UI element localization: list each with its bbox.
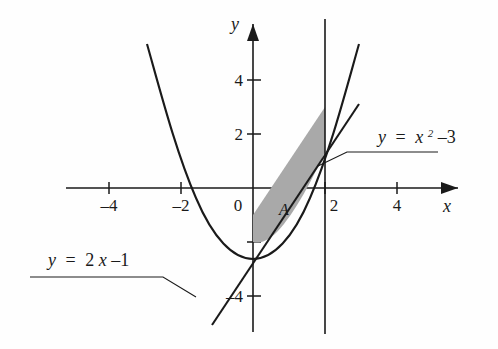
x-tick-label-4: 4 <box>393 196 402 215</box>
line-label: y = 2 x –1 <box>46 250 129 270</box>
y-tick-label-4: 4 <box>235 71 244 90</box>
x-tick-label--2: –2 <box>172 196 190 215</box>
parabola-label-operator: = <box>396 127 406 147</box>
y-tick-label-2: 2 <box>235 125 244 144</box>
y-axis-arrowhead <box>247 24 259 41</box>
line-label-variable: x <box>98 250 107 270</box>
x-tick-label--4: –4 <box>100 196 119 215</box>
parabola-label-exponent: 2 <box>428 127 434 139</box>
y-axis-label: y <box>229 14 239 34</box>
parabola-label-lhs: y <box>376 127 386 147</box>
axes-group: –4 –2 0 2 4 4 2 –4 x y <box>66 14 458 332</box>
x-axis-label: x <box>442 196 451 216</box>
line-leader-line <box>30 277 196 297</box>
x-axis-arrowhead <box>441 182 458 194</box>
x-tick-label-0: 0 <box>234 196 243 215</box>
graph-canvas: –4 –2 0 2 4 4 2 –4 x y A <box>0 0 498 349</box>
x-tick-label-2: 2 <box>330 196 339 215</box>
line-label-slope: 2 <box>85 250 94 270</box>
math-figure: –4 –2 0 2 4 4 2 –4 x y A <box>0 0 498 349</box>
parabola-label-tail: –3 <box>437 127 456 147</box>
parabola-label-base: x <box>414 127 423 147</box>
line-label-lhs: y <box>46 250 56 270</box>
line-label-operator: = <box>66 250 76 270</box>
shaded-region-A <box>253 107 325 243</box>
line-label-tail: –1 <box>110 250 129 270</box>
parabola-label: y = x 2 –3 <box>376 121 456 147</box>
leader-lines-group <box>30 152 438 297</box>
parabola-leader-line <box>318 152 438 166</box>
